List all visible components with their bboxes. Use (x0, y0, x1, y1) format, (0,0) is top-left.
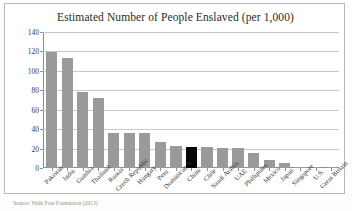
bar-slot (91, 32, 107, 168)
bar (108, 133, 119, 168)
bar-slot (60, 32, 76, 168)
bar-slot (106, 32, 122, 168)
bar (77, 92, 88, 168)
bar-slot (75, 32, 91, 168)
bar-slot (199, 32, 215, 168)
bar (93, 98, 104, 168)
bar-slot (230, 32, 246, 168)
y-tick-mark-0 (40, 168, 43, 169)
plot-area: 020406080100120140 (43, 32, 339, 168)
bar-slot (153, 32, 169, 168)
y-tick-label-120: 120 (28, 47, 39, 56)
bar-slot (246, 32, 262, 168)
bar (46, 52, 57, 168)
source-note: Source: Walk Free Foundation (2013) (13, 200, 98, 206)
y-tick-mark-100 (40, 71, 43, 72)
bar-slot (184, 32, 200, 168)
y-tick-label-0: 0 (35, 164, 39, 173)
y-tick-label-40: 40 (32, 125, 40, 134)
chart-title: Estimated Number of People Enslaved (per… (5, 11, 346, 23)
y-tick-label-100: 100 (28, 66, 39, 75)
bar-slot (122, 32, 138, 168)
bar (217, 148, 228, 168)
bar (170, 146, 181, 168)
chart-frame: Estimated Number of People Enslaved (per… (4, 3, 345, 194)
bar-slot (168, 32, 184, 168)
y-tick-label-60: 60 (32, 105, 40, 114)
bar-slot (292, 32, 308, 168)
bars-group (44, 32, 339, 168)
bar (201, 147, 212, 168)
bar (155, 142, 166, 168)
y-tick-mark-120 (40, 51, 43, 52)
bar (62, 58, 73, 168)
y-tick-mark-80 (40, 90, 43, 91)
y-tick-mark-20 (40, 149, 43, 150)
y-tick-mark-40 (40, 129, 43, 130)
bar-slot (308, 32, 324, 168)
y-tick-label-140: 140 (28, 28, 39, 37)
bar-slot (215, 32, 231, 168)
bar-slot (44, 32, 60, 168)
bar-slot (261, 32, 277, 168)
bar (124, 133, 135, 168)
bar-slot (277, 32, 293, 168)
y-tick-mark-60 (40, 110, 43, 111)
y-tick-mark-140 (40, 32, 43, 33)
chart-figure: Estimated Number of People Enslaved (per… (0, 0, 352, 211)
bar-slot (137, 32, 153, 168)
y-tick-label-20: 20 (32, 144, 40, 153)
y-tick-label-80: 80 (32, 86, 40, 95)
bar-slot (323, 32, 339, 168)
